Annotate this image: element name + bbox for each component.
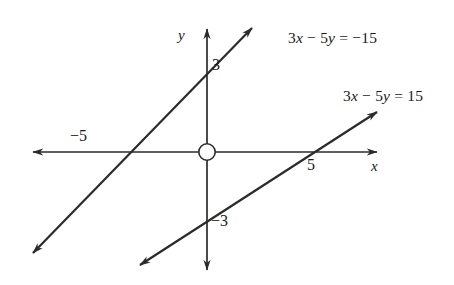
x-axis-label: x bbox=[371, 159, 378, 174]
tick-label-x-neg5: −5 bbox=[70, 128, 87, 144]
equation-label-upper: 3x − 5y = −15 bbox=[288, 30, 377, 46]
tick-label-y-neg3: −3 bbox=[211, 213, 228, 229]
equation-label-lower: 3x − 5y = 15 bbox=[343, 88, 423, 104]
tick-label-x-5: 5 bbox=[307, 157, 315, 173]
y-axis-label: y bbox=[178, 28, 185, 43]
origin-marker bbox=[199, 144, 215, 160]
line-3x-5y-eq-15 bbox=[140, 112, 377, 265]
graph-figure: 3x − 5y = −15 3x − 5y = 15 y x 3 −3 −5 5 bbox=[0, 0, 454, 285]
tick-label-y-3: 3 bbox=[212, 57, 220, 73]
coordinate-plane bbox=[0, 0, 454, 285]
